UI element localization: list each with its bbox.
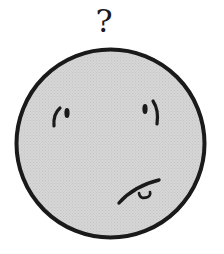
right-eye-icon — [142, 104, 147, 114]
confused-face-illustration: ? — [0, 0, 224, 254]
left-eye-icon — [64, 108, 69, 118]
face-circle — [17, 50, 205, 238]
face-drawing — [0, 0, 224, 254]
